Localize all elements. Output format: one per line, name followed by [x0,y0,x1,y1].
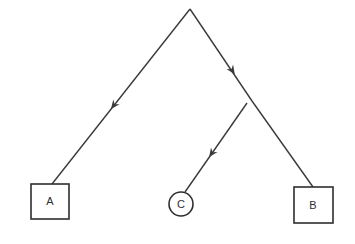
tree-diagram: A C B [0,0,355,244]
node-b-label: B [309,199,316,211]
arrow-icon-c-branch [206,147,218,159]
node-c-label: C [177,198,185,210]
node-a: A [31,184,69,219]
edge-branch-to-b [252,101,313,187]
edge-root-to-branch [190,9,252,101]
node-b: B [294,187,333,223]
node-c: C [169,192,193,216]
edge-branch-to-c [185,103,247,192]
edge-root-to-a [52,9,190,184]
node-a-label: A [46,195,54,207]
